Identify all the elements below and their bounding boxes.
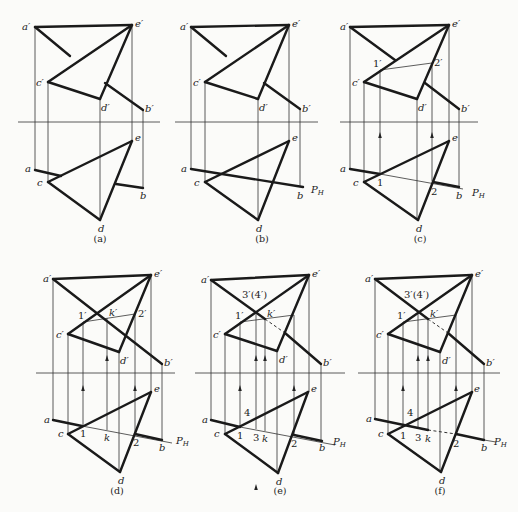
point-label: c′	[56, 329, 65, 340]
point-label: c	[194, 177, 200, 188]
point-label: a	[181, 163, 187, 174]
arrow-up-icon	[430, 132, 434, 138]
point-label: e	[135, 132, 141, 143]
panel-caption: (e)	[273, 485, 286, 496]
point-label: PH	[493, 436, 508, 449]
point-label: PH	[471, 187, 486, 200]
point-label: b	[456, 190, 462, 201]
point-label: b	[140, 190, 146, 201]
point-label: d′	[259, 102, 268, 113]
arrow-up-icon	[105, 355, 109, 361]
arrow-up-icon	[254, 484, 258, 490]
panel-b: a′e′c′d′b′eacdbPH(b)	[175, 18, 325, 244]
visible-edge	[425, 83, 459, 109]
point-number-label: 3′(4′)	[242, 289, 267, 300]
point-label: e	[474, 383, 480, 394]
point-label: k′	[267, 308, 276, 319]
panel-caption: (b)	[255, 233, 269, 244]
point-label: c′	[213, 329, 222, 340]
point-label: b	[319, 442, 325, 453]
visible-edge	[211, 420, 240, 427]
point-number-label: 2	[431, 186, 437, 197]
point-number-label: 3	[253, 432, 259, 443]
visible-edge	[35, 25, 132, 27]
point-number-label: 2′	[434, 57, 443, 68]
panel-caption: (c)	[414, 233, 427, 244]
point-label: k′	[430, 308, 439, 319]
panel-c: a′e′c′d′b′eacdbPH1′2′12(c)	[340, 18, 486, 244]
projection-line	[380, 174, 463, 189]
visible-edge	[264, 83, 300, 109]
point-label: b	[159, 442, 165, 453]
point-number-label: 1′	[78, 310, 87, 321]
point-label: k	[104, 432, 110, 443]
visible-edge	[68, 334, 119, 352]
point-label: e′	[292, 18, 301, 29]
visible-edge	[116, 184, 143, 188]
point-label: e′	[154, 268, 163, 279]
arrow-up-icon	[426, 355, 430, 361]
point-label: a	[202, 414, 208, 425]
point-label: b′	[486, 357, 495, 368]
point-number-label: 1′	[397, 310, 406, 321]
visible-edge	[35, 27, 70, 56]
visible-edge	[105, 83, 143, 110]
point-number-label: 1	[80, 428, 86, 439]
visible-edge	[191, 25, 289, 27]
point-number-label: 1	[400, 430, 406, 441]
point-number-label: 2	[453, 438, 459, 449]
arrow-up-icon	[378, 132, 382, 138]
point-label: a′	[43, 273, 52, 284]
projection-diagram: a′e′c′d′b′eacdb(a)a′e′c′d′b′eacdbPH(b)a′…	[0, 0, 518, 512]
point-label: e	[452, 132, 458, 143]
point-label: c	[58, 428, 64, 439]
point-label: a′	[22, 21, 31, 32]
point-label: d′	[101, 102, 110, 113]
panel-caption: (d)	[110, 485, 124, 496]
visible-edge	[205, 82, 258, 99]
point-label: a	[25, 163, 31, 174]
arrow-up-icon	[254, 355, 258, 361]
panel-d: a′e′c′d′b′eacdbk′kPH1′2′12(d)	[36, 268, 190, 496]
arrow-up-icon	[292, 385, 296, 391]
point-label: b′	[302, 103, 311, 114]
arrow-up-icon	[81, 385, 85, 391]
point-number-label: 2	[133, 437, 139, 448]
point-label: a′	[340, 21, 349, 32]
arrow-up-icon	[401, 385, 405, 391]
panel-caption: (a)	[93, 233, 106, 244]
point-number-label: 1	[377, 177, 383, 188]
point-label: d′	[418, 102, 427, 113]
point-label: PH	[310, 184, 325, 197]
visible-edge	[448, 333, 484, 364]
point-label: e	[292, 132, 298, 143]
point-label: a	[366, 413, 372, 424]
arrow-up-icon	[263, 355, 267, 361]
point-label: c′	[376, 329, 385, 340]
visible-edge	[364, 82, 417, 99]
visible-edge	[68, 434, 120, 472]
panel-a: a′e′c′d′b′eacdb(a)	[18, 18, 160, 244]
point-label: a	[340, 163, 346, 174]
point-number-label: 1′	[235, 310, 244, 321]
arrow-up-icon	[454, 385, 458, 391]
point-label: e′	[312, 268, 321, 279]
point-label: k′	[109, 307, 118, 318]
visible-edge	[191, 27, 226, 56]
visible-edge	[53, 275, 151, 279]
point-number-label: 3′(4′)	[404, 289, 429, 300]
point-number-label: 1	[237, 430, 243, 441]
visible-edge	[48, 82, 100, 99]
point-label: c′	[36, 77, 45, 88]
point-number-label: 4	[244, 407, 250, 418]
point-label: e	[311, 383, 317, 394]
hidden-line	[428, 430, 456, 434]
point-label: PH	[332, 436, 347, 449]
point-label: e′	[452, 18, 461, 29]
visible-edge	[456, 434, 484, 440]
visible-edge	[100, 141, 132, 220]
point-label: b′	[164, 357, 173, 368]
visible-edge	[225, 434, 278, 473]
visible-edge	[350, 169, 380, 174]
hidden-line	[428, 319, 448, 333]
